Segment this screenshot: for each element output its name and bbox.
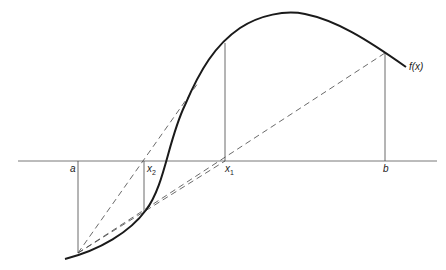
label-x1: x1 [225,163,234,176]
chord-a-b [78,53,385,253]
label-fx: f(x) [409,61,423,72]
tangent-line [78,83,198,253]
label-b: b [383,163,389,174]
label-x1-sub: 1 [230,169,234,176]
label-a: a [70,163,76,174]
function-curve [65,13,406,259]
label-x2: x2 [147,163,156,176]
diagram-svg [0,0,446,270]
label-x2-sub: 2 [152,169,156,176]
diagram-canvas: a x2 x1 b f(x) [0,0,446,270]
